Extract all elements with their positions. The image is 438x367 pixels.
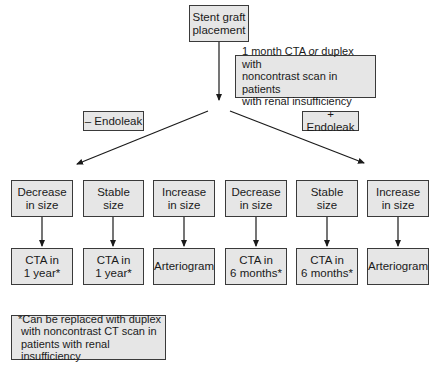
outcome-box: Stablesize (83, 180, 144, 217)
note-line-1: 1 month CTA or duplex with (242, 45, 375, 70)
positive-endoleak-text: + Endoleak (303, 108, 358, 134)
action-box: Arteriogram (367, 248, 429, 285)
negative-endoleak-text: – Endoleak (85, 115, 143, 128)
action-box: CTA in1 year* (83, 248, 144, 285)
root-label-1: Stent graft (192, 11, 245, 24)
note-line-2: noncontrast scan in patients (242, 70, 375, 95)
outcome-box: Increasein size (153, 180, 215, 217)
footnote-line-1: *Can be replaced with duplex (18, 313, 165, 326)
footnote-box: *Can be replaced with duplex with noncon… (11, 315, 166, 360)
action-box: Arteriogram (153, 248, 215, 285)
root-node: Stent graft placement (189, 5, 249, 42)
footnote-line-2: with noncontrast CT scan in (18, 325, 165, 338)
outcome-box: Increasein size (367, 180, 429, 217)
outcome-box: Decreasein size (11, 180, 73, 217)
note-line-3: with renal insufficiency (242, 95, 375, 108)
outcome-box: Decreasein size (225, 180, 287, 217)
footnote-line-3: patients with renal insufficiency (18, 338, 165, 363)
positive-endoleak-label: + Endoleak (302, 111, 359, 131)
root-label-2: placement (192, 24, 245, 37)
followup-note: 1 month CTA or duplex with noncontrast s… (235, 55, 376, 98)
outcome-box: Stablesize (296, 180, 358, 217)
negative-endoleak-label: – Endoleak (83, 111, 144, 131)
action-box: CTA in6 months* (225, 248, 287, 285)
action-box: CTA in1 year* (11, 248, 73, 285)
action-box: CTA in6 months* (296, 248, 358, 285)
